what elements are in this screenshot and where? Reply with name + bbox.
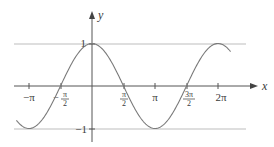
x-axis-arrow-icon xyxy=(250,83,258,89)
y-axis-arrow-icon xyxy=(89,11,95,19)
label-half-pi-num: π xyxy=(122,90,126,99)
label-two-pi: 2π xyxy=(215,91,227,103)
label-neg-half-pi-den: 2 xyxy=(63,99,67,108)
y-axis-label: y xyxy=(97,8,104,22)
x-axis-label: x xyxy=(261,79,268,93)
label-neg-pi: −π xyxy=(23,91,35,103)
label-y-neg-1: −1 xyxy=(75,123,87,135)
label-three-half-pi-num: 3π xyxy=(185,90,193,99)
label-three-half-pi-den: 2 xyxy=(187,99,191,108)
label-pi: π xyxy=(152,91,158,103)
label-neg-half-pi-num: π xyxy=(63,90,67,99)
cosine-chart: x y −π − π 2 π 2 π 3π 2 2π 1 −1 xyxy=(0,0,274,147)
label-neg-half-pi-sign: − xyxy=(53,92,59,103)
label-half-pi-den: 2 xyxy=(122,99,126,108)
